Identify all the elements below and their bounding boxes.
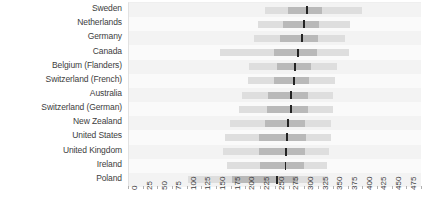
category-label: United Kingdom bbox=[63, 146, 122, 155]
axis-tick-label: 275 bbox=[292, 177, 300, 190]
category-label: New Zealand bbox=[73, 117, 122, 126]
interquartile-box bbox=[259, 134, 306, 141]
axis-tick-label: 425 bbox=[380, 177, 388, 190]
axis-tick bbox=[275, 186, 276, 189]
category-label: United States bbox=[72, 131, 122, 140]
axis-tick bbox=[216, 186, 217, 189]
median-marker bbox=[297, 49, 299, 57]
category-label: Canada bbox=[93, 47, 122, 56]
axis-tick-label: 125 bbox=[204, 177, 212, 190]
axis-tick-label: 150 bbox=[219, 177, 227, 190]
axis-tick-label: 325 bbox=[322, 177, 330, 190]
category-label: Switzerland (French) bbox=[46, 75, 122, 84]
axis-tick bbox=[157, 186, 158, 189]
interquartile-box bbox=[274, 77, 310, 84]
axis-tick-label: 75 bbox=[175, 181, 183, 190]
axis-tick bbox=[333, 186, 334, 189]
axis-tick-label: 475 bbox=[410, 177, 418, 190]
median-marker bbox=[287, 119, 289, 127]
interquartile-box bbox=[274, 49, 316, 56]
plot-area bbox=[128, 2, 421, 186]
interquartile-box bbox=[260, 162, 303, 169]
category-label: Germany bbox=[88, 32, 122, 41]
axis-tick-label: 25 bbox=[146, 181, 154, 190]
axis-tick bbox=[289, 186, 290, 189]
axis-tick-label: 350 bbox=[336, 177, 344, 190]
axis-tick bbox=[406, 186, 407, 189]
category-axis-labels: SwedenNetherlandsGermanyCanadaBelgium (F… bbox=[0, 0, 126, 186]
axis-tick bbox=[143, 186, 144, 189]
axis-tick bbox=[128, 186, 129, 189]
median-marker bbox=[290, 105, 292, 113]
category-label: Sweden bbox=[92, 4, 122, 13]
axis-tick-label: 400 bbox=[366, 177, 374, 190]
axis-tick-label: 50 bbox=[161, 181, 169, 190]
category-label: Ireland bbox=[97, 160, 122, 169]
median-marker bbox=[290, 91, 292, 99]
category-label: Poland bbox=[96, 174, 122, 183]
axis-tick bbox=[231, 186, 232, 189]
axis-tick-label: 225 bbox=[263, 177, 271, 190]
median-marker bbox=[303, 20, 305, 28]
median-marker bbox=[285, 162, 287, 170]
interquartile-box bbox=[265, 120, 305, 127]
category-label: Netherlands bbox=[77, 18, 122, 27]
category-label: Belgium (Flanders) bbox=[52, 61, 122, 70]
axis-tick-label: 300 bbox=[307, 177, 315, 190]
median-marker bbox=[306, 6, 308, 14]
x-axis: 0255075100125150175200225250275300325350… bbox=[128, 186, 424, 222]
interquartile-box bbox=[259, 148, 305, 155]
median-marker bbox=[285, 148, 287, 156]
boxplot-chart: SwedenNetherlandsGermanyCanadaBelgium (F… bbox=[0, 0, 424, 222]
axis-tick bbox=[392, 186, 393, 189]
median-marker bbox=[294, 63, 296, 71]
axis-tick bbox=[421, 186, 422, 189]
interquartile-box bbox=[283, 21, 320, 28]
axis-tick-label: 0 bbox=[131, 186, 139, 190]
axis-tick bbox=[362, 186, 363, 189]
axis-tick bbox=[304, 186, 305, 189]
interquartile-box bbox=[280, 35, 318, 42]
median-marker bbox=[286, 133, 288, 141]
interquartile-box bbox=[267, 106, 307, 113]
axis-tick bbox=[187, 186, 188, 189]
median-marker bbox=[301, 34, 303, 42]
axis-tick bbox=[377, 186, 378, 189]
axis-tick bbox=[260, 186, 261, 189]
axis-tick-label: 200 bbox=[248, 177, 256, 190]
axis-tick bbox=[318, 186, 319, 189]
category-label: Switzerland (German) bbox=[41, 103, 122, 112]
category-label: Australia bbox=[90, 89, 122, 98]
axis-tick bbox=[172, 186, 173, 189]
axis-tick-label: 175 bbox=[234, 177, 242, 190]
median-marker bbox=[293, 77, 295, 85]
axis-tick-label: 250 bbox=[278, 177, 286, 190]
axis-tick bbox=[348, 186, 349, 189]
axis-tick-label: 100 bbox=[190, 177, 198, 190]
axis-tick-label: 450 bbox=[395, 177, 403, 190]
axis-tick-label: 375 bbox=[351, 177, 359, 190]
interquartile-box bbox=[268, 92, 307, 99]
